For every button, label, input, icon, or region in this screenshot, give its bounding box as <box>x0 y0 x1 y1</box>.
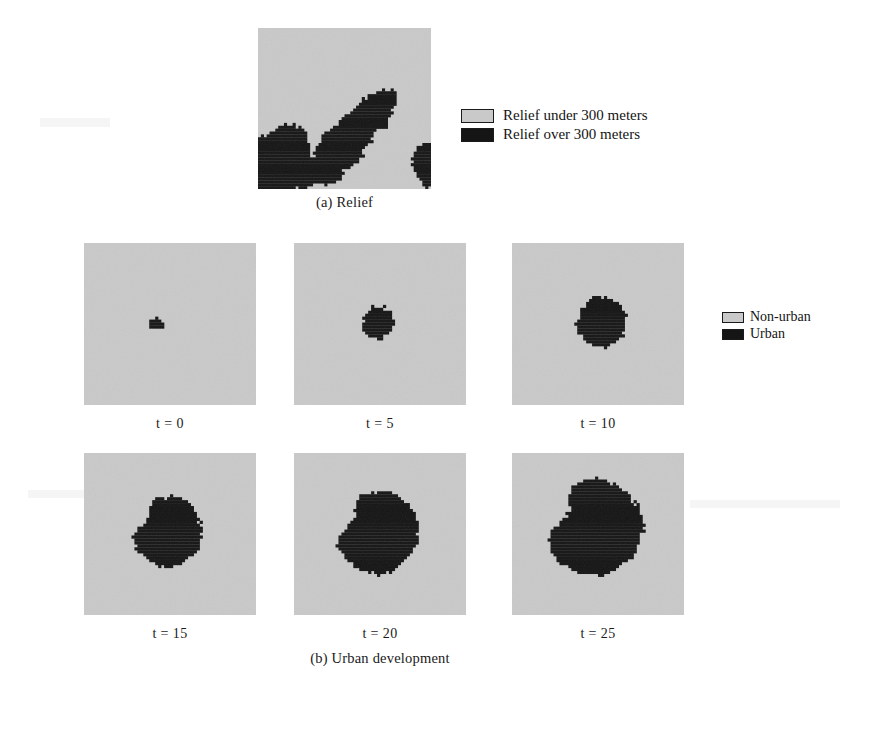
swatch-urban <box>722 329 744 340</box>
legend-item-urban: Urban <box>722 327 811 341</box>
urban-caption: (b) Urban development <box>234 650 526 667</box>
urban-map-svg-t25 <box>512 453 684 615</box>
relief-map-panel <box>258 28 431 189</box>
urban-legend: Non-urban Urban <box>722 310 811 344</box>
urban-map-svg-t5 <box>294 243 466 405</box>
swatch-relief-low <box>461 109 494 123</box>
relief-map-svg <box>258 28 431 189</box>
urban-panel-label-t10: t = 10 <box>512 416 684 432</box>
urban-map-panel-t0 <box>84 243 256 405</box>
urban-map-panel-t5 <box>294 243 466 405</box>
urban-map-svg-t0 <box>84 243 256 405</box>
swatch-relief-high <box>461 128 494 142</box>
legend-label-nonurban: Non-urban <box>750 310 811 324</box>
legend-label-relief-high: Relief over 300 meters <box>503 127 640 142</box>
relief-legend: Relief under 300 meters Relief over 300 … <box>461 108 648 142</box>
urban-map-svg-t20 <box>294 453 466 615</box>
legend-item-nonurban: Non-urban <box>722 310 811 324</box>
urban-panel-label-t0: t = 0 <box>84 416 256 432</box>
urban-panel-label-t15: t = 15 <box>84 626 256 642</box>
legend-label-relief-low: Relief under 300 meters <box>503 108 648 123</box>
urban-map-panel-t15 <box>84 453 256 615</box>
urban-panel-label-t5: t = 5 <box>294 416 466 432</box>
scan-artifact <box>40 118 110 127</box>
figure-root: (a) Relief Relief under 300 meters Relie… <box>0 0 873 743</box>
swatch-nonurban <box>722 312 744 323</box>
urban-panel-label-t20: t = 20 <box>294 626 466 642</box>
legend-label-urban: Urban <box>750 327 785 341</box>
urban-map-panel-t10 <box>512 243 684 405</box>
relief-caption: (a) Relief <box>258 194 431 211</box>
legend-item-relief-low: Relief under 300 meters <box>461 108 648 123</box>
urban-map-panel-t20 <box>294 453 466 615</box>
urban-panel-label-t25: t = 25 <box>512 626 684 642</box>
urban-map-svg-t10 <box>512 243 684 405</box>
legend-item-relief-high: Relief over 300 meters <box>461 127 648 142</box>
urban-map-svg-t15 <box>84 453 256 615</box>
scan-artifact <box>690 500 840 508</box>
urban-map-panel-t25 <box>512 453 684 615</box>
